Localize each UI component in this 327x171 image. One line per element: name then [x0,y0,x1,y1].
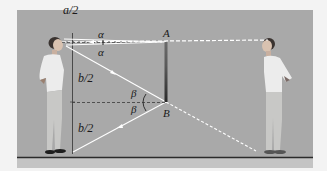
label-beta-upper: β [131,88,136,99]
label-point-b: B [163,108,170,119]
diagram-canvas [0,0,327,171]
label-alpha-upper: α [98,29,104,40]
label-b-half-upper: b/2 [78,72,93,84]
mirror-diagram: a/2 α α A b/2 β β B b/2 [0,0,327,171]
label-b-half-lower: b/2 [78,122,93,134]
label-beta-lower: β [131,104,136,115]
plane-mirror [165,42,168,102]
label-a-half: a/2 [63,4,78,16]
label-alpha-lower: α [98,47,104,58]
label-point-a: A [163,28,170,39]
floor-strip [17,158,313,168]
